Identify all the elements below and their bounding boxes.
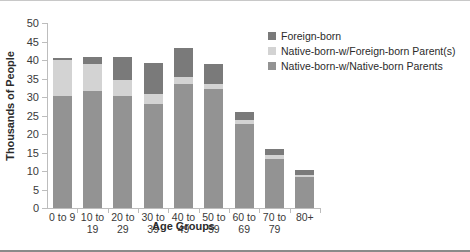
chart-legend: Foreign-bornNative-born-w/Foreign-born P… [268,28,455,73]
y-axis-tick-label: 20 [27,128,39,140]
legend-item[interactable]: Native-born-w/Native-born Parents [268,58,455,73]
y-axis-title: Thousands of People [0,1,20,211]
y-axis-tick-label: 30 [27,91,39,103]
legend-item[interactable]: Foreign-born [268,28,455,43]
x-axis-tick [320,208,321,213]
bar-segment [113,80,132,96]
y-axis-tick [42,97,47,98]
stacked-bar [113,57,132,208]
legend-swatch-icon [268,32,276,40]
bar-segment [113,57,132,80]
y-axis-title-text: Thousands of People [4,51,16,160]
y-axis-tick [42,208,47,209]
legend-swatch-icon [268,47,276,55]
bar-segment [144,104,163,208]
x-axis-line [47,208,320,209]
bar-segment [204,89,223,208]
y-axis-tick-label: 5 [33,184,39,196]
stacked-bar [295,170,314,208]
legend-item-label: Native-born-w/Foreign-born Parent(s) [281,45,455,57]
stacked-bar [174,48,193,208]
y-axis-tick [42,60,47,61]
bar-segment [144,94,163,104]
bar-segment [265,159,284,208]
bar-segment [204,64,223,84]
y-axis-tick-label: 0 [33,202,39,214]
stacked-bar [53,58,72,208]
stacked-bar [265,149,284,208]
stacked-bar [235,112,254,208]
y-axis-tick [42,23,47,24]
bar-segment [83,64,102,91]
y-axis-tick-label: 50 [27,17,39,29]
stacked-bar [83,57,102,208]
y-axis-tick [42,134,47,135]
legend-item[interactable]: Native-born-w/Foreign-born Parent(s) [268,43,455,58]
y-axis-tick [42,79,47,80]
stacked-bar-chart-figure: Thousands of People 05101520253035404550… [0,0,470,252]
y-axis-tick [42,190,47,191]
y-axis-tick-label: 45 [27,36,39,48]
bar-segment [295,177,314,208]
y-axis-tick [42,42,47,43]
y-axis-tick-label: 25 [27,110,39,122]
y-axis-tick-label: 35 [27,73,39,85]
y-axis-tick-label: 40 [27,54,39,66]
legend-item-label: Foreign-born [281,30,341,42]
y-axis-line [47,23,48,208]
bar-segment [113,96,132,208]
bar-segment [53,60,72,96]
stacked-bar [204,64,223,208]
y-axis-tick-label: 15 [27,147,39,159]
bar-segment [235,124,254,208]
y-axis-tick-label: 10 [27,165,39,177]
bar-segment [144,63,163,94]
y-axis-tick [42,171,47,172]
bar-segment [174,84,193,208]
x-axis-title: Age Groups [47,220,320,232]
bar-segment [265,149,284,156]
bar-segment [83,91,102,208]
bar-segment [174,48,193,77]
legend-item-label: Native-born-w/Native-born Parents [281,60,443,72]
bar-segment [235,112,254,120]
bar-segment [174,77,193,84]
stacked-bar [144,63,163,208]
bar-segment [83,57,102,64]
legend-swatch-icon [268,62,276,70]
y-axis-tick [42,116,47,117]
y-axis-tick [42,153,47,154]
bar-segment [53,96,72,208]
